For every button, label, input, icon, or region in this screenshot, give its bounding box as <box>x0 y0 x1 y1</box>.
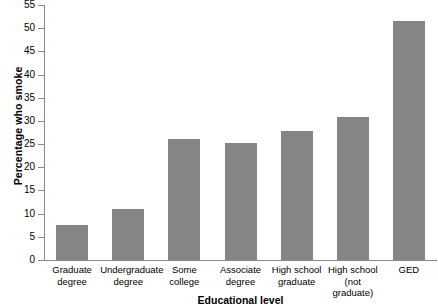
y-tick-label: 40 <box>11 70 35 80</box>
bar <box>393 21 425 260</box>
y-tick-mark <box>38 190 44 191</box>
x-category-label: Graduate degree <box>44 264 100 287</box>
y-tick-mark <box>38 51 44 52</box>
bar-chart: Percentage who smoke 0510152025303540455… <box>0 0 438 304</box>
y-tick-label: 55 <box>11 0 35 10</box>
x-axis-line <box>44 260 437 261</box>
y-tick-label: 35 <box>11 93 35 103</box>
bar <box>225 143 257 260</box>
y-tick-mark <box>38 167 44 168</box>
y-tick-label: 15 <box>11 185 35 195</box>
x-axis-title: Educational level <box>44 294 437 304</box>
y-tick-mark <box>38 75 44 76</box>
bar <box>56 225 88 260</box>
y-tick-label: 10 <box>11 209 35 219</box>
y-tick-label: 5 <box>11 232 35 242</box>
y-tick-label: 20 <box>11 162 35 172</box>
y-tick-mark <box>38 260 44 261</box>
y-tick-mark <box>38 214 44 215</box>
y-tick-label: 45 <box>11 46 35 56</box>
bar <box>281 131 313 260</box>
y-tick-label: 25 <box>11 139 35 149</box>
y-tick-label: 50 <box>11 23 35 33</box>
y-tick-mark <box>38 237 44 238</box>
x-category-label: Associate degree <box>212 264 268 287</box>
bar <box>168 139 200 260</box>
y-tick-label: 30 <box>11 116 35 126</box>
y-tick-mark <box>38 5 44 6</box>
y-tick-mark <box>38 98 44 99</box>
y-tick-label: 0 <box>11 255 35 265</box>
x-category-label: GED <box>381 264 437 276</box>
x-category-label: High school graduate <box>269 264 325 287</box>
y-tick-mark <box>38 28 44 29</box>
x-category-label: Undergraduate degree <box>100 264 156 287</box>
bar <box>337 117 369 260</box>
bar <box>112 209 144 260</box>
y-tick-mark <box>38 144 44 145</box>
y-tick-mark <box>38 121 44 122</box>
x-category-label: Some college <box>156 264 212 287</box>
y-axis-line <box>44 5 45 261</box>
